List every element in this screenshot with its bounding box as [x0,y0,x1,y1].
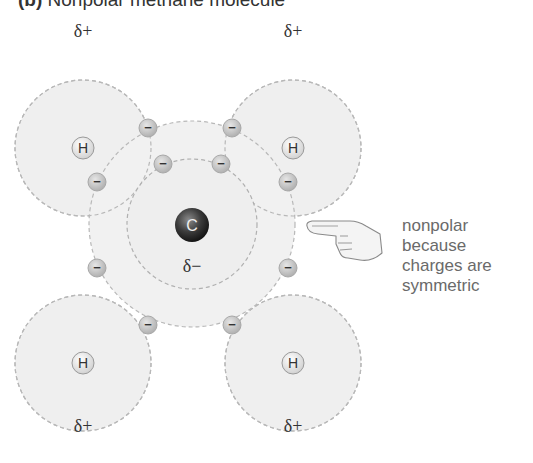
svg-text:−: − [284,174,292,189]
annotation-line: charges are [402,256,492,276]
charge-label-h3: δ+ [74,416,93,436]
hydrogen-nucleus-1: H [72,137,94,159]
hydrogen-nucleus-3: H [72,352,94,374]
svg-text:C: C [186,217,198,234]
annotation-line: nonpolar [402,216,492,236]
electron-icon: − [279,259,297,277]
annotation-text: nonpolar because charges are symmetric [402,216,492,296]
charge-label-carbon: δ− [183,256,202,276]
hydrogen-nucleus-2: H [282,137,304,159]
charge-label-h4: δ+ [284,416,303,436]
svg-text:−: − [217,156,225,171]
electron-icon: − [223,316,241,334]
charge-label-h2: δ+ [284,21,303,41]
svg-text:−: − [228,120,236,135]
electron-icon: − [212,155,230,173]
charge-label-h1: δ+ [74,21,93,41]
svg-text:−: − [144,317,152,332]
carbon-nucleus: C [175,208,209,242]
electron-icon: − [139,119,157,137]
electron-icon: − [279,173,297,191]
pointing-hand-icon [307,221,382,260]
electron-icon: − [88,173,106,191]
svg-text:H: H [78,355,88,371]
svg-text:H: H [288,140,298,156]
electron-icon: − [223,119,241,137]
svg-text:−: − [159,156,167,171]
annotation-line: because [402,236,492,256]
hydrogen-nucleus-4: H [282,352,304,374]
svg-text:−: − [144,120,152,135]
svg-text:H: H [288,355,298,371]
electron-icon: − [88,259,106,277]
electron-icon: − [154,155,172,173]
svg-text:−: − [93,174,101,189]
electron-icon: − [139,316,157,334]
svg-text:H: H [78,140,88,156]
svg-text:−: − [284,260,292,275]
svg-text:−: − [228,317,236,332]
annotation-line: symmetric [402,276,492,296]
svg-text:−: − [93,260,101,275]
